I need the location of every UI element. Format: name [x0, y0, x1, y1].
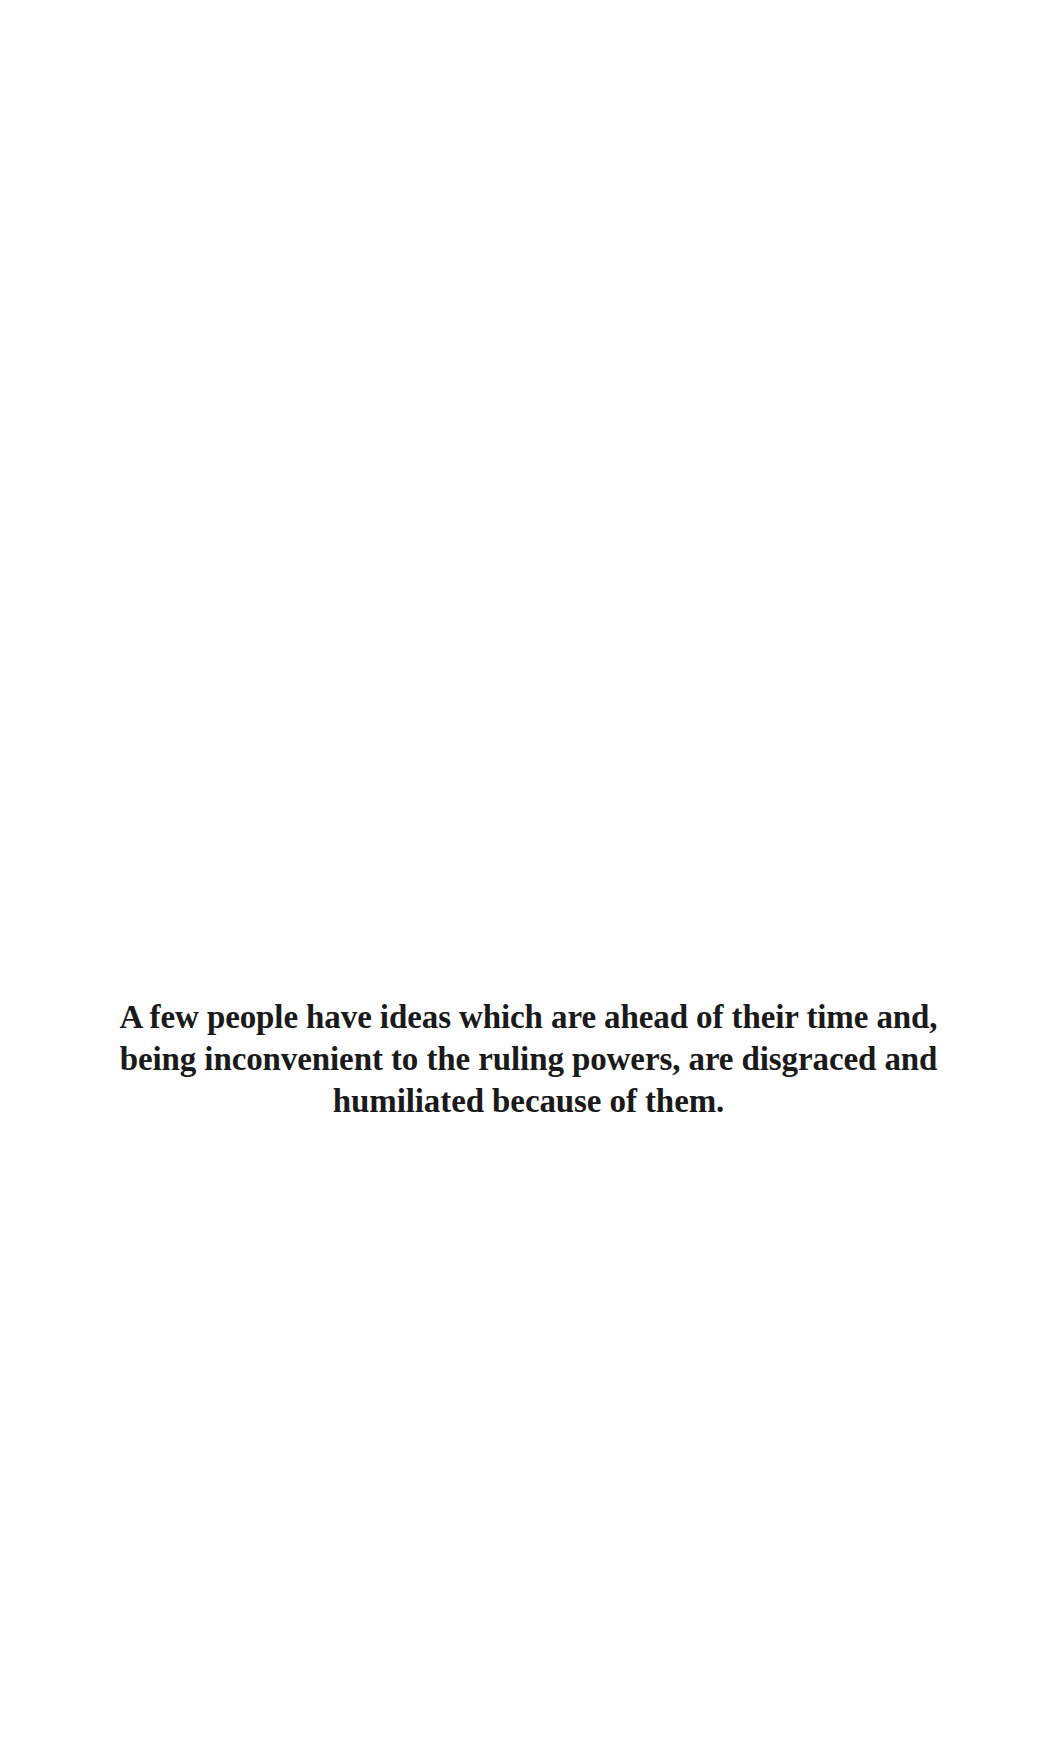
quote-line-2: being inconvenient to the ruling powers,…: [40, 1038, 1017, 1080]
quote-line-3: humiliated because of them.: [40, 1080, 1017, 1122]
page: A few people have ideas which are ahead …: [0, 0, 1057, 1762]
quote-line-1: A few people have ideas which are ahead …: [40, 996, 1017, 1038]
quote-text: A few people have ideas which are ahead …: [40, 996, 1017, 1122]
